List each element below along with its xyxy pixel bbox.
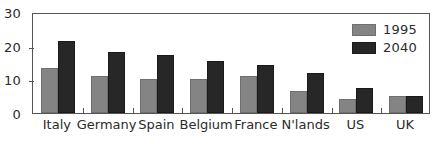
y-axis: 0102030 (0, 0, 26, 144)
bar-chart: 0102030 19952040 ItalyGermanySpainBelgiu… (0, 0, 436, 144)
y-tick-label: 20 (0, 41, 26, 54)
bar (58, 41, 75, 113)
y-tick-label: 10 (0, 74, 26, 87)
y-tick-label: 0 (0, 108, 26, 121)
x-tick-label: Germany (77, 118, 137, 132)
x-tick-label: Belgium (179, 118, 232, 132)
bar-group (290, 14, 324, 113)
bar (190, 79, 207, 113)
bar (307, 73, 324, 113)
x-tick-mark (133, 108, 134, 113)
x-tick-label: Italy (43, 118, 71, 132)
y-tick-label: 30 (0, 7, 26, 20)
x-tick-mark (381, 108, 382, 113)
legend-swatch (352, 24, 376, 36)
bar (389, 96, 406, 114)
bar-group (41, 14, 75, 113)
legend-item: 1995 (352, 22, 417, 37)
bar (240, 76, 257, 113)
x-tick-label: Spain (138, 118, 174, 132)
bar (207, 61, 224, 113)
x-tick-mark (83, 108, 84, 113)
bar (339, 99, 356, 113)
legend-item: 2040 (352, 40, 417, 55)
bar-group (190, 14, 224, 113)
bar (290, 91, 307, 113)
bar-group (140, 14, 174, 113)
bar-group (91, 14, 125, 113)
legend: 19952040 (348, 20, 421, 58)
x-axis: ItalyGermanySpainBelgiumFranceN'landsUSU… (32, 118, 430, 140)
x-tick-label: France (234, 118, 277, 132)
legend-label: 1995 (383, 23, 417, 36)
bar (108, 52, 125, 113)
x-tick-label: N'lands (282, 118, 330, 132)
bar (140, 79, 157, 113)
bar (157, 55, 174, 113)
x-tick-mark (182, 108, 183, 113)
legend-swatch (352, 42, 376, 54)
x-tick-label: US (346, 118, 364, 132)
bar (41, 68, 58, 113)
bar (356, 88, 373, 113)
x-tick-mark (282, 108, 283, 113)
x-tick-mark (332, 108, 333, 113)
x-tick-mark (232, 108, 233, 113)
bar (257, 65, 274, 113)
plot-area: 19952040 (32, 13, 430, 114)
bar (406, 96, 423, 114)
bar-group (240, 14, 274, 113)
bar (91, 76, 108, 113)
x-tick-label: UK (396, 118, 414, 132)
legend-label: 2040 (383, 41, 417, 54)
